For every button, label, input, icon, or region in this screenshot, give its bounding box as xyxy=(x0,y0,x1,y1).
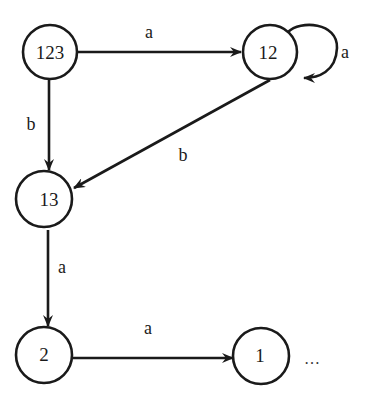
node-label: 12 xyxy=(259,42,278,63)
edge-label: a xyxy=(341,42,349,62)
state-diagram: a a b b a a 123 12 13 2 1 … xyxy=(0,0,366,403)
edge-label: a xyxy=(58,257,66,277)
edge-label: a xyxy=(144,318,152,338)
state-node-13: 13 xyxy=(16,171,72,227)
edge-123-to-12: a xyxy=(78,22,241,52)
node-label: 123 xyxy=(36,42,65,63)
state-node-1: 1 xyxy=(233,328,289,384)
edge-label: a xyxy=(145,22,153,42)
edge-2-to-1: a xyxy=(72,318,233,358)
node-label: 13 xyxy=(40,189,59,210)
edge-label: b xyxy=(27,114,36,134)
continuation-ellipsis: … xyxy=(304,350,320,367)
edge-13-to-2: a xyxy=(48,230,66,326)
state-node-2: 2 xyxy=(16,327,72,383)
node-label: 1 xyxy=(255,345,265,366)
edge-12-to-13: b xyxy=(74,80,270,188)
edge-123-to-13: b xyxy=(27,80,50,170)
node-label: 2 xyxy=(39,344,49,365)
edge-label: b xyxy=(179,145,188,165)
state-node-12: 12 xyxy=(243,25,297,79)
state-node-123: 123 xyxy=(23,25,77,79)
